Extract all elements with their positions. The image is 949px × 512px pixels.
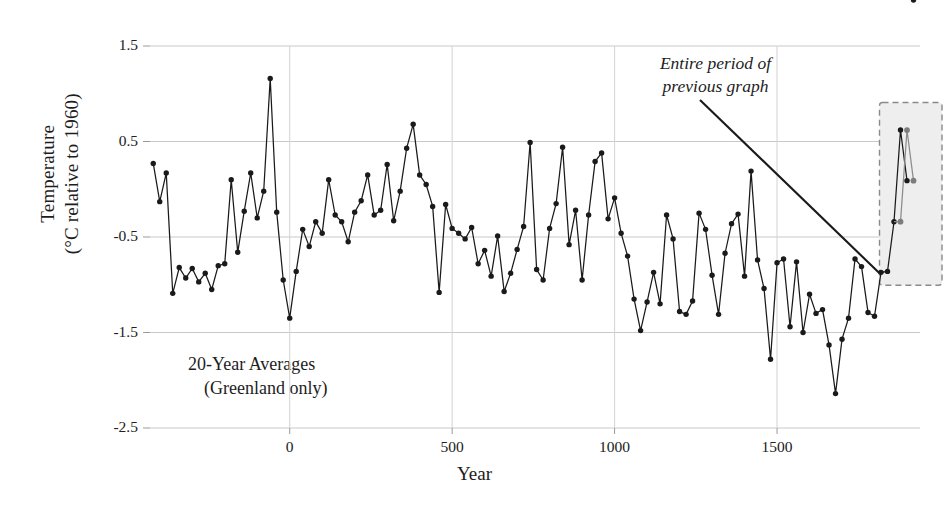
data-point (170, 291, 175, 296)
data-point (423, 182, 428, 187)
data-point (547, 226, 552, 231)
data-point (768, 357, 773, 362)
data-point (586, 212, 591, 217)
data-point (605, 216, 610, 221)
data-point (508, 271, 513, 276)
data-point (553, 201, 558, 206)
data-point (566, 242, 571, 247)
data-point (742, 273, 747, 278)
data-point (501, 289, 506, 294)
data-point (761, 286, 766, 291)
data-point (716, 312, 721, 317)
data-point (196, 279, 201, 284)
data-point (794, 259, 799, 264)
data-point (235, 250, 240, 255)
data-point (670, 236, 675, 241)
data-point (482, 248, 487, 253)
data-point (255, 215, 260, 220)
data-point (898, 127, 903, 132)
data-point (248, 170, 253, 175)
data-point (151, 161, 156, 166)
data-point (618, 230, 623, 235)
data-point (371, 212, 376, 217)
data-point (319, 230, 324, 235)
data-point (579, 277, 584, 282)
data-point (352, 209, 357, 214)
data-point (183, 275, 188, 280)
data-point (449, 226, 454, 231)
data-point (417, 172, 422, 177)
y-tick-label: -2.5 (92, 418, 138, 436)
data-point (495, 233, 500, 238)
data-point (287, 315, 292, 320)
data-point (657, 301, 662, 306)
data-point (281, 277, 286, 282)
data-point (469, 225, 474, 230)
data-point (696, 210, 701, 215)
data-point (410, 122, 415, 127)
data-point (631, 296, 636, 301)
plot-canvas (0, 0, 949, 512)
data-point (813, 311, 818, 316)
data-point (592, 159, 597, 164)
data-point (709, 273, 714, 278)
data-point (514, 247, 519, 252)
highlight-data-point (911, 178, 917, 184)
x-tick-label: 1500 (747, 438, 807, 456)
x-tick-label: 0 (260, 438, 320, 456)
series-line (153, 78, 907, 393)
data-point (229, 177, 234, 182)
data-point (638, 328, 643, 333)
data-point (690, 298, 695, 303)
data-point (677, 309, 682, 314)
data-point (391, 218, 396, 223)
data-point (274, 209, 279, 214)
highlight-data-point (898, 219, 904, 225)
data-point (735, 211, 740, 216)
data-point (859, 264, 864, 269)
data-point (462, 236, 467, 241)
y-tick-label: 0.5 (92, 132, 138, 150)
y-tick-label: 1.5 (92, 36, 138, 54)
data-point (365, 172, 370, 177)
data-point (488, 273, 493, 278)
highlight-data-point (904, 127, 910, 133)
data-point (703, 227, 708, 232)
data-point (826, 342, 831, 347)
data-point (839, 336, 844, 341)
data-point (345, 239, 350, 244)
data-point (177, 265, 182, 270)
data-point (904, 178, 909, 183)
data-point (339, 219, 344, 224)
data-point (475, 261, 480, 266)
data-point (846, 315, 851, 320)
x-tick-label: 500 (422, 438, 482, 456)
data-point (612, 195, 617, 200)
data-point (313, 219, 318, 224)
data-point (190, 266, 195, 271)
data-point (268, 76, 273, 81)
data-point (216, 263, 221, 268)
y-tick-label: -0.5 (92, 227, 138, 245)
y-tick-label: -1.5 (92, 323, 138, 341)
data-point (300, 227, 305, 232)
data-point (852, 256, 857, 261)
data-point (326, 177, 331, 182)
data-point (774, 260, 779, 265)
data-point (800, 330, 805, 335)
data-point (332, 212, 337, 217)
data-point (683, 312, 688, 317)
data-point (865, 310, 870, 315)
data-point (358, 198, 363, 203)
data-point (436, 290, 441, 295)
y-tick-marks (143, 46, 150, 428)
data-point (443, 202, 448, 207)
data-point (430, 204, 435, 209)
data-point (664, 212, 669, 217)
data-point (573, 208, 578, 213)
data-point (807, 292, 812, 297)
data-point (164, 170, 169, 175)
data-point (885, 269, 890, 274)
x-tick-label: 1000 (585, 438, 645, 456)
data-point (261, 188, 266, 193)
